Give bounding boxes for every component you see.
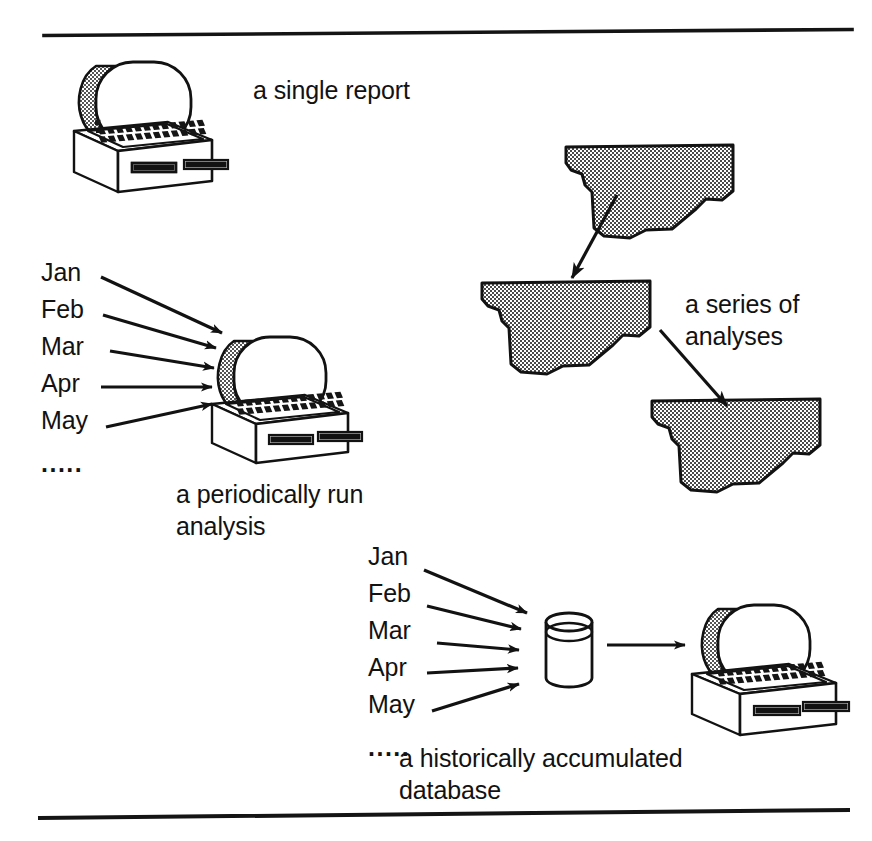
computer-icon-periodic-analysis (212, 337, 362, 463)
caption-historical-database-line1: a historically accumulated (399, 742, 683, 774)
computer-icon-single-report (74, 62, 228, 192)
top-rule (44, 30, 852, 36)
database-arrows (424, 570, 527, 711)
report-page-2 (482, 281, 650, 374)
month-label-apr-database: Apr (368, 652, 407, 683)
periodic-analysis-arrows (101, 277, 222, 427)
cylinder-database-icon (546, 613, 592, 687)
month-label-may-periodic: May (41, 405, 88, 436)
diagram-vector-layer (0, 0, 872, 841)
month-label-mar-periodic: Mar (41, 331, 84, 362)
caption-single-report: a single report (253, 75, 410, 106)
caption-periodic-analysis-line1: a periodically run (176, 478, 363, 510)
month-label-jan-periodic: Jan (41, 257, 81, 288)
bottom-rule (40, 810, 848, 818)
report-page-1 (566, 145, 733, 238)
computer-icon-historical-database (692, 605, 849, 735)
caption-periodic-analysis-line2: analysis (176, 510, 266, 542)
figure-canvas: a single report Jan Feb Mar Apr May ....… (0, 0, 872, 841)
month-label-mar-database: Mar (368, 615, 411, 646)
ellipsis-periodic: ..... (41, 448, 83, 479)
report-page-3 (652, 399, 820, 492)
caption-series-of-analyses-line2: analyses (685, 320, 783, 352)
caption-historical-database-line2: database (399, 774, 501, 806)
caption-series-of-analyses-line1: a series of (685, 288, 799, 320)
month-label-feb-periodic: Feb (41, 294, 84, 325)
month-label-jan-database: Jan (368, 541, 408, 572)
month-label-apr-periodic: Apr (41, 368, 80, 399)
month-label-may-database: May (368, 689, 415, 720)
month-label-feb-database: Feb (368, 578, 411, 609)
